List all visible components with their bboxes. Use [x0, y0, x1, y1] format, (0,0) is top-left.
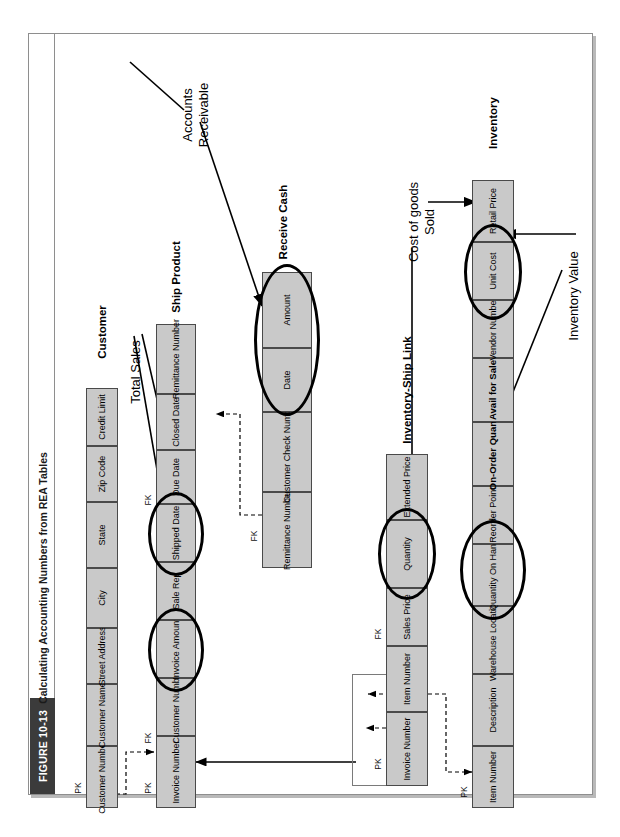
table-title-inventory-ship-link: Inventory-Ship Link — [376, 334, 438, 446]
figure-title: Calculating Accounting Numbers from REA … — [30, 458, 55, 698]
table-cell[interactable]: State — [86, 502, 118, 568]
table-cell[interactable]: Due Date — [156, 450, 196, 504]
annotation-total-sales: Total Sales — [118, 322, 154, 422]
key-marker-fk: FK — [140, 724, 156, 752]
table-cell[interactable]: Credit Limit — [86, 388, 118, 446]
key-marker-fk: FK — [140, 486, 156, 514]
table-cell[interactable]: Item Number — [472, 746, 514, 808]
figure-tag-label: FIGURE 10-13 — [37, 710, 49, 782]
table-cell[interactable]: Item Number — [386, 646, 428, 712]
table-cell[interactable]: Customer Number — [156, 678, 196, 736]
table-cell[interactable]: Sales Price — [386, 588, 428, 646]
table-cell[interactable]: Retail Price — [472, 180, 514, 242]
diagram-canvas: PK Customer Number Customer Name Street … — [56, 34, 592, 794]
table-cell[interactable]: On-Order Quant — [472, 422, 514, 486]
annotation-inventory-value: Inventory Value — [556, 232, 592, 360]
table-title-customer: Customer — [82, 292, 122, 372]
table-cell[interactable]: Street Address — [86, 628, 118, 684]
table-cell[interactable]: Customer Number — [86, 746, 118, 808]
table-cell[interactable]: Reorder Point — [472, 486, 514, 544]
figure-title-strip: FIGURE 10-13 Calculating Accounting Numb… — [30, 34, 55, 794]
key-marker-pk: PK — [456, 778, 472, 806]
table-cell[interactable]: Invoice Amount — [156, 620, 196, 678]
figure-page: FIGURE 10-13 Calculating Accounting Numb… — [0, 0, 620, 837]
table-cell[interactable]: Sale Rep — [156, 562, 196, 620]
table-cell[interactable]: Closed Date — [156, 394, 196, 450]
annotation-accounts-receivable: Accounts Receivable — [174, 60, 218, 170]
table-cell[interactable]: Invoice Number — [156, 736, 196, 808]
table-cell[interactable]: Avail for Sale — [472, 358, 514, 422]
key-marker-fk: FK — [246, 522, 262, 550]
fk-link-remittance — [216, 414, 262, 515]
table-cell[interactable]: Customer Check Number — [262, 412, 312, 492]
table-cell[interactable]: Extended Price — [386, 454, 428, 520]
table-cell[interactable]: Customer Name — [86, 684, 118, 746]
annotation-cost-of-goods-sold: Cost of goods Sold — [400, 162, 444, 282]
table-cell[interactable]: Date — [262, 348, 312, 412]
table-cell[interactable]: Quantity On Hand — [472, 544, 514, 606]
table-cell[interactable]: Unit Cost — [472, 242, 514, 300]
pk-bracket — [352, 674, 390, 786]
table-title-ship-product: Ship Product — [152, 232, 200, 322]
table-cell[interactable]: Amount — [262, 272, 312, 348]
table-cell[interactable]: Invoice Number — [386, 712, 428, 786]
key-marker-fk: FK — [370, 620, 386, 648]
key-marker-pk: PK — [70, 774, 86, 802]
table-cell[interactable]: Zip Code — [86, 446, 118, 502]
table-title-receive-cash: Receive Cash — [254, 174, 312, 270]
table-cell[interactable]: Quantity — [386, 520, 428, 588]
table-cell[interactable]: Remittance Number — [156, 324, 196, 394]
table-cell[interactable]: Vendor Number — [472, 300, 514, 358]
table-cell[interactable]: Remittance Number — [262, 492, 312, 568]
table-cell[interactable]: Shipped Date — [156, 504, 196, 562]
figure-tag: FIGURE 10-13 — [30, 698, 55, 794]
table-title-inventory: Inventory — [468, 78, 518, 168]
table-cell[interactable]: Description — [472, 674, 514, 746]
table-cell[interactable]: City — [86, 568, 118, 628]
table-cell[interactable]: Warehouse Location — [472, 606, 514, 674]
figure-title-label: Calculating Accounting Numbers from REA … — [37, 452, 49, 704]
key-marker-pk: PK — [140, 774, 156, 802]
